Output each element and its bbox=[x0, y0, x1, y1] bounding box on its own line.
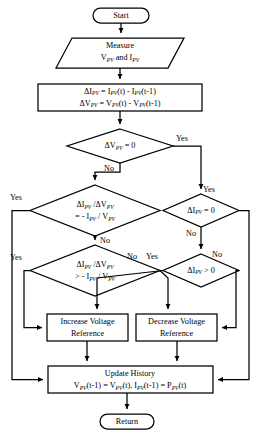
edge-d4-yes bbox=[24, 271, 42, 328]
edge-d1-yes bbox=[173, 146, 201, 189]
edge-label-d5-yes: Yes bbox=[146, 252, 158, 261]
edge-label-d1-yes: Yes bbox=[176, 134, 188, 143]
node-d1-shape bbox=[67, 129, 173, 163]
edge-label-d1-no: No bbox=[104, 164, 114, 173]
edge-d4-no-decrease bbox=[160, 271, 168, 310]
node-d3-shape bbox=[163, 194, 239, 227]
edge-label-d2-yes: Yes bbox=[10, 193, 22, 202]
node-decrease-shape bbox=[136, 314, 217, 341]
node-d5-shape bbox=[163, 254, 239, 287]
node-return-shape bbox=[100, 414, 154, 429]
node-measure-shape bbox=[56, 38, 184, 68]
node-d2-shape bbox=[30, 185, 160, 236]
edge-label-d2-no: No bbox=[100, 236, 110, 245]
node-increase-shape bbox=[47, 314, 128, 341]
edge-d5-no bbox=[222, 271, 239, 328]
edge-label-d5-no: No bbox=[212, 250, 222, 259]
edge-d2-yes bbox=[12, 211, 43, 380]
edge-d3-yes bbox=[218, 211, 249, 380]
edge-label-d3-no: No bbox=[186, 229, 196, 238]
edge-label-d4-no: No bbox=[127, 252, 137, 261]
node-d4-shape bbox=[30, 245, 160, 296]
node-delta-shape bbox=[38, 84, 202, 111]
edge-label-d3-yes: Yes bbox=[203, 185, 215, 194]
flowchart-canvas bbox=[0, 0, 259, 442]
node-start-shape bbox=[93, 8, 149, 23]
edge-label-d4-yes: Yes bbox=[10, 253, 22, 262]
node-update-shape bbox=[48, 366, 213, 393]
